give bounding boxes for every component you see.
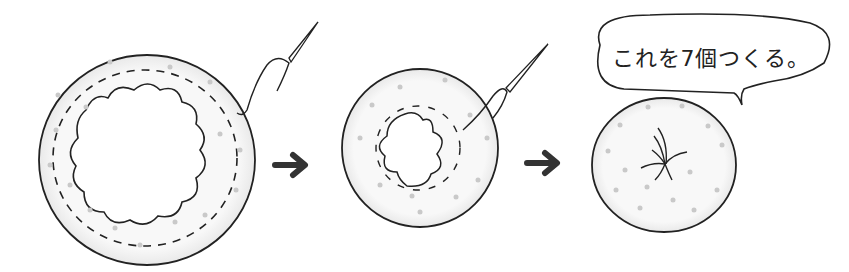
- needle-icon: [506, 44, 548, 92]
- arrow-right-icon: [527, 153, 557, 173]
- step-1-fabric-circle: [39, 22, 318, 265]
- arrow-right-icon: [275, 155, 305, 175]
- step-3-finished-yoyo: [592, 98, 736, 232]
- speech-bubble-text: これを7個つくる。: [606, 40, 816, 72]
- needle-icon: [289, 22, 318, 62]
- step-2-gathered-circle: [342, 44, 548, 227]
- thread: [237, 58, 289, 114]
